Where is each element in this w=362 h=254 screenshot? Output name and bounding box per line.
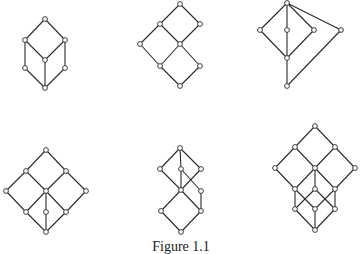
lattice-edge	[335, 168, 355, 189]
lattice-edge	[26, 212, 46, 232]
lattice-node-circle-icon	[43, 17, 48, 22]
lattice-node-circle-icon	[64, 169, 69, 174]
lattice-edge	[46, 212, 66, 232]
lattice-node-circle-icon	[158, 64, 163, 69]
lattice-node-circle-icon	[179, 230, 184, 235]
lattice-node-circle-icon	[63, 66, 68, 71]
lattice-edge	[160, 169, 181, 190]
lattice-edge	[315, 147, 335, 168]
lattice-edge	[26, 171, 46, 191]
lattice-node-circle-icon	[159, 209, 164, 214]
lattice-node-circle-icon	[178, 146, 183, 151]
lattice-edge	[180, 66, 200, 86]
lattice-node-circle-icon	[44, 210, 49, 215]
lattice-4	[4, 148, 89, 235]
lattice-node-circle-icon	[333, 187, 338, 192]
lattice-edge	[160, 66, 180, 86]
lattice-node-circle-icon	[313, 207, 318, 212]
lattice-node-circle-icon	[64, 210, 69, 215]
lattice-node-circle-icon	[293, 145, 298, 150]
lattice-edge	[180, 4, 200, 24]
lattice-node-circle-icon	[293, 187, 298, 192]
lattice-node-circle-icon	[138, 42, 143, 47]
lattice-node-circle-icon	[23, 38, 28, 43]
lattice-3	[258, 1, 344, 89]
lattice-edge	[287, 3, 341, 30]
lattice-node-circle-icon	[199, 209, 204, 214]
lattice-node-circle-icon	[258, 28, 263, 33]
lattice-1	[23, 17, 68, 91]
lattice-edge	[26, 150, 46, 171]
lattice-edge	[315, 168, 335, 189]
lattice-edge	[6, 191, 26, 212]
lattice-edge	[181, 190, 201, 211]
lattice-edge	[66, 171, 86, 191]
lattice-node-circle-icon	[293, 207, 298, 212]
lattice-edge	[181, 211, 201, 232]
lattice-edge	[295, 126, 315, 147]
lattice-edge	[335, 147, 355, 168]
lattice-node-circle-icon	[198, 22, 203, 27]
lattice-edge	[161, 211, 181, 232]
lattice-edge	[295, 209, 315, 230]
lattice-node-circle-icon	[313, 166, 318, 171]
lattice-node-circle-icon	[4, 189, 9, 194]
lattice-node-circle-icon	[313, 228, 318, 233]
lattice-node-circle-icon	[333, 207, 338, 212]
lattice-node-circle-icon	[313, 124, 318, 129]
lattice-node-circle-icon	[43, 86, 48, 91]
lattice-node-circle-icon	[353, 166, 358, 171]
lattice-edge	[260, 30, 287, 58]
lattice-node-circle-icon	[285, 56, 290, 61]
lattice-node-circle-icon	[44, 189, 49, 194]
lattice-edge	[46, 171, 66, 191]
lattice-node-circle-icon	[63, 38, 68, 43]
lattice-edge	[260, 3, 287, 30]
lattice-edge	[161, 190, 181, 211]
lattice-edge	[287, 30, 341, 86]
lattice-edge	[287, 30, 314, 58]
lattice-node-circle-icon	[312, 28, 317, 33]
lattice-node-circle-icon	[199, 189, 204, 194]
lattice-edge	[180, 148, 181, 169]
lattice-edge	[45, 19, 65, 40]
lattice-5	[158, 146, 204, 235]
lattice-edge	[295, 147, 315, 168]
lattice-edge	[295, 168, 315, 189]
lattice-node-circle-icon	[273, 166, 278, 171]
lattice-edge	[25, 40, 45, 60]
lattice-edge	[315, 126, 335, 147]
lattice-edge	[45, 68, 65, 88]
lattice-edge	[160, 44, 180, 66]
lattice-edge	[26, 191, 46, 212]
lattice-node-circle-icon	[339, 28, 344, 33]
lattice-node-circle-icon	[313, 187, 318, 192]
lattice-edge	[287, 3, 314, 30]
lattice-node-circle-icon	[333, 145, 338, 150]
lattice-edge	[180, 24, 200, 44]
lattice-edge	[46, 150, 66, 171]
lattice-node-circle-icon	[44, 230, 49, 235]
lattice-node-circle-icon	[158, 22, 163, 27]
lattice-edge	[315, 209, 335, 230]
lattice-node-circle-icon	[199, 167, 204, 172]
lattice-edge	[180, 148, 201, 169]
lattice-edge	[140, 24, 160, 44]
lattice-node-circle-icon	[43, 58, 48, 63]
lattice-edge	[25, 68, 45, 88]
lattice-node-circle-icon	[44, 148, 49, 153]
lattice-node-circle-icon	[285, 1, 290, 6]
lattice-edge	[46, 191, 66, 212]
lattice-node-circle-icon	[84, 189, 89, 194]
lattice-edge	[160, 148, 180, 169]
lattice-node-circle-icon	[158, 167, 163, 172]
lattice-edge	[160, 24, 180, 44]
lattice-node-circle-icon	[24, 210, 29, 215]
lattice-edge	[140, 44, 160, 66]
lattice-node-circle-icon	[285, 84, 290, 89]
lattice-node-circle-icon	[178, 84, 183, 89]
lattice-node-circle-icon	[179, 188, 184, 193]
lattice-edge	[25, 19, 45, 40]
hasse-diagrams	[4, 1, 358, 235]
